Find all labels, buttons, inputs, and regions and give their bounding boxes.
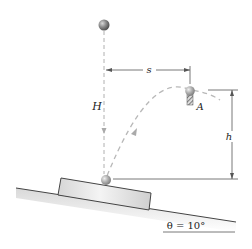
top-ball: [99, 20, 110, 31]
support-A: [187, 95, 193, 105]
dimension-s: s: [106, 64, 190, 84]
dimension-h: h: [113, 90, 238, 179]
drop-arrow-icon: [102, 128, 107, 134]
label-H: H: [91, 100, 102, 113]
bottom-ball: [101, 175, 111, 185]
label-theta: θ = 10°: [167, 220, 205, 231]
trajectory-arrow-icon: [131, 128, 137, 136]
ball-A: [185, 86, 195, 96]
target-A: [185, 86, 195, 105]
label-A: A: [195, 101, 203, 112]
label-s: s: [146, 64, 151, 75]
diagram-canvas: s H A h θ = 10°: [0, 0, 252, 249]
label-h: h: [226, 131, 232, 142]
